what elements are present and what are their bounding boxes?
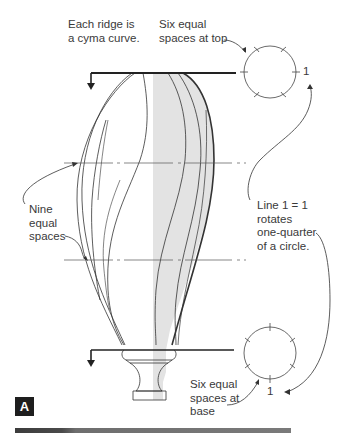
top-spaces-note: Six equal spaces at top [159, 18, 227, 45]
arrow-down-icon [87, 83, 95, 90]
arrow-down-icon [87, 360, 95, 367]
shaded-half [153, 73, 214, 400]
top-circle-marker: 1 [303, 65, 309, 79]
rotation-note: Line 1 = 1 rotates one-quarter of a circ… [257, 199, 316, 253]
nine-spaces-note: Nine equal spaces [29, 203, 65, 244]
base-division-circle [244, 323, 296, 383]
base-circle-marker: 1 [267, 385, 273, 399]
bottom-divider-bar [15, 428, 291, 433]
figure-label-badge: A [15, 397, 34, 416]
top-division-circle [240, 46, 300, 98]
base-spaces-note: Six equal spaces at base [190, 378, 239, 419]
ridge-note: Each ridge is a cyma curve. [68, 18, 140, 45]
